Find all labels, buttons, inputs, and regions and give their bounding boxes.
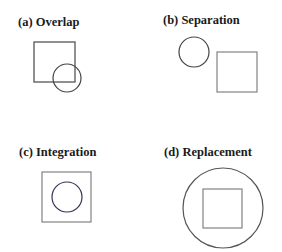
panel-replacement	[183, 168, 263, 248]
overlap-circle	[53, 64, 81, 92]
replacement-square	[203, 189, 242, 228]
integration-square	[42, 172, 91, 222]
panel-separation	[179, 37, 257, 92]
integration-circle	[52, 182, 82, 212]
overlap-square	[34, 42, 75, 82]
shapes-canvas	[0, 0, 282, 252]
separation-square	[217, 52, 257, 92]
replacement-circle	[183, 168, 263, 248]
separation-circle	[179, 37, 209, 67]
panel-overlap	[34, 42, 81, 92]
panel-integration	[42, 172, 91, 222]
